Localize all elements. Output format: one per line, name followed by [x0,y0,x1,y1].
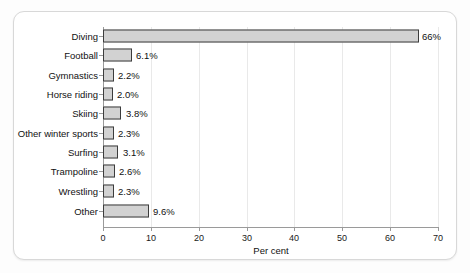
category-label-other-winter-sports: Other winter sports [18,128,98,139]
chart-screenshot: Diving Football Gymnastics Horse riding … [0,0,470,273]
value-label-surfing: 3.1% [123,147,145,158]
x-tick-label-20: 20 [194,233,204,243]
category-label-football: Football [64,50,98,61]
category-label-wrestling: Wrestling [59,186,98,197]
gridline-40 [294,27,295,227]
category-label-diving: Diving [72,31,98,42]
bar-skiing [103,107,121,120]
value-label-other-winter-sports: 2.3% [118,128,140,139]
bar-trampoline [103,165,115,178]
bar-diving [103,30,419,43]
x-tick-mark-0 [103,227,104,231]
value-label-diving: 66% [422,31,441,42]
gridline-30 [247,27,248,227]
x-tick-mark-10 [151,227,152,231]
category-label-trampoline: Trampoline [51,166,98,177]
value-label-trampoline: 2.6% [119,166,141,177]
gridline-50 [342,27,343,227]
bar-chart-plot-area: Diving Football Gymnastics Horse riding … [0,0,470,273]
x-tick-label-0: 0 [100,233,105,243]
value-label-gymnastics: 2.2% [118,70,140,81]
x-axis-title: Per cent [253,245,288,256]
category-label-other: Other [74,206,98,217]
x-tick-label-30: 30 [242,233,252,243]
gridline-20 [199,27,200,227]
bar-football [103,49,132,62]
x-tick-label-10: 10 [146,233,156,243]
x-tick-label-70: 70 [433,233,443,243]
gridline-60 [390,27,391,227]
bar-horse-riding [103,88,113,101]
x-tick-mark-40 [294,227,295,231]
value-label-horse-riding: 2.0% [117,89,139,100]
value-label-other: 9.6% [153,206,175,217]
value-label-wrestling: 2.3% [118,186,140,197]
value-label-football: 6.1% [136,50,158,61]
category-label-horse-riding: Horse riding [47,89,98,100]
x-tick-mark-50 [342,227,343,231]
x-tick-mark-30 [247,227,248,231]
x-tick-label-50: 50 [337,233,347,243]
category-label-gymnastics: Gymnastics [48,70,98,81]
bar-other [103,205,149,218]
x-tick-mark-60 [390,227,391,231]
gridline-70 [438,27,439,227]
x-tick-label-60: 60 [385,233,395,243]
category-label-skiing: Skiing [72,108,98,119]
bar-surfing [103,146,118,159]
value-label-skiing: 3.8% [126,108,148,119]
x-axis-line [103,227,439,228]
bar-wrestling [103,185,114,198]
x-tick-label-40: 40 [289,233,299,243]
category-label-surfing: Surfing [68,147,98,158]
x-tick-mark-20 [199,227,200,231]
bar-other-winter-sports [103,127,114,140]
x-tick-mark-70 [438,227,439,231]
bar-gymnastics [103,69,114,82]
